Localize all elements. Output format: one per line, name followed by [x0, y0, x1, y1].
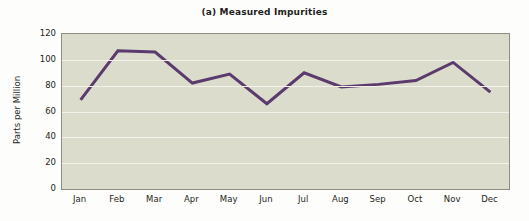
chart-title: (a) Measured Impurities: [0, 7, 529, 17]
gridline: [62, 163, 509, 164]
x-axis-tick-label: Feb: [109, 194, 124, 204]
x-axis-tick-label: Oct: [408, 194, 423, 204]
x-axis-tick-label: Dec: [481, 194, 497, 204]
y-axis-tick-label: 40: [26, 131, 56, 141]
x-axis-tick-label: May: [220, 194, 238, 204]
y-axis-label: Parts per Million: [9, 60, 25, 160]
y-axis-tick-label: 80: [26, 80, 56, 90]
x-axis-tick-label: Sep: [370, 194, 386, 204]
y-axis-tick-label: 120: [26, 28, 56, 38]
plot-area: [61, 33, 510, 190]
x-axis-tick-label: Apr: [184, 194, 199, 204]
x-axis-tick-label: Nov: [444, 194, 461, 204]
y-axis-tick-labels: 020406080100120: [26, 27, 56, 193]
gridline: [62, 60, 509, 61]
x-axis-tick-label: Jul: [298, 194, 308, 204]
x-axis-tick-label: Mar: [146, 194, 162, 204]
y-axis-tick-label: 20: [26, 157, 56, 167]
chart-figure: (a) Measured Impurities Parts per Millio…: [0, 0, 529, 221]
y-axis-tick-label: 100: [26, 54, 56, 64]
gridline: [62, 86, 509, 87]
x-axis-tick-labels: JanFebMarAprMayJunJulAugSepOctNovDec: [61, 194, 508, 210]
y-axis-tick-label: 0: [26, 183, 56, 193]
x-axis-tick-label: Jan: [73, 194, 86, 204]
y-axis-tick-label: 60: [26, 106, 56, 116]
x-axis-tick-label: Jun: [259, 194, 272, 204]
x-axis-tick-label: Aug: [332, 194, 349, 204]
gridline: [62, 112, 509, 113]
gridline: [62, 137, 509, 138]
